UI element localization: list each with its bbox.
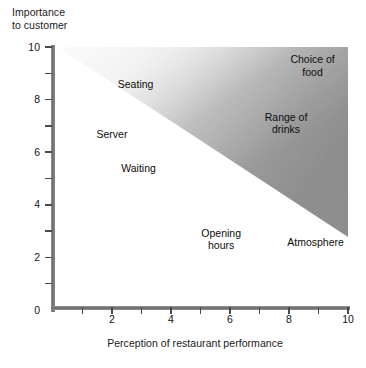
point-label-waiting: Waiting — [121, 162, 156, 174]
x-tick-label-6: 6 — [217, 313, 243, 325]
plot-area: SeatingServerWaitingOpening hoursAtmosph… — [53, 47, 348, 310]
y-tick-label-8: 8 — [14, 93, 40, 105]
y-tick-label-2: 2 — [14, 251, 40, 263]
point-label-range-of-drinks: Range of drinks — [265, 111, 308, 135]
y-tick-8 — [45, 99, 52, 101]
y-tick-label-10: 10 — [14, 41, 40, 53]
point-label-seating: Seating — [118, 78, 154, 90]
y-tick-6 — [45, 151, 52, 153]
y-tick-3 — [45, 230, 52, 232]
shade-svg — [53, 47, 348, 310]
y-tick-5 — [45, 178, 52, 180]
y-tick-10 — [45, 46, 52, 48]
y-axis-title-line1: Importance — [12, 6, 65, 18]
x-tick-label-8: 8 — [276, 313, 302, 325]
y-axis-title-line2: to customer — [12, 19, 67, 31]
y-tick-9 — [45, 73, 52, 75]
point-label-choice-of-food: Choice of food — [290, 53, 334, 77]
y-tick-1 — [45, 283, 52, 285]
y-tick-label-6: 6 — [14, 146, 40, 158]
y-axis-title: Importanceto customer — [12, 6, 67, 31]
x-tick-label-2: 2 — [99, 313, 125, 325]
y-tick-label-0: 0 — [14, 304, 40, 316]
x-tick-label-4: 4 — [158, 313, 184, 325]
x-tick-label-10: 10 — [335, 313, 361, 325]
y-tick-2 — [45, 257, 52, 259]
y-tick-4 — [45, 204, 52, 206]
y-tick-label-4: 4 — [14, 198, 40, 210]
point-label-atmosphere: Atmosphere — [287, 236, 344, 248]
point-label-opening-hours: Opening hours — [201, 227, 241, 251]
y-tick-7 — [45, 125, 52, 127]
importance-performance-chart: Importanceto customer 0246810246810 — [0, 0, 366, 368]
shaded-improvement-zone — [53, 47, 348, 310]
point-label-server: Server — [97, 128, 128, 140]
x-axis-title: Perception of restaurant performance — [0, 337, 366, 349]
